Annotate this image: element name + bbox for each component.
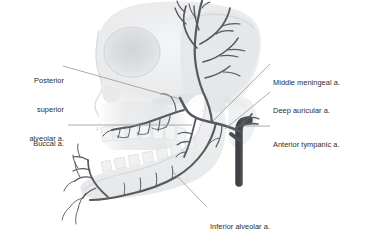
label-deep-auricular: Deep auricular a.	[273, 87, 373, 125]
temporal-fossa	[180, 11, 259, 106]
incisive-branch-3	[62, 207, 70, 220]
label-line: Anterior tympanic a.	[273, 140, 373, 150]
label-inferior-alveolar: Inferior alveolar a.	[210, 203, 320, 237]
mental-branch-3	[73, 157, 88, 160]
label-line: Inferior alveolar a.	[210, 222, 320, 232]
label-line: Posterior	[4, 76, 64, 86]
label-buccal: Buccal a.	[4, 120, 64, 158]
label-line: Buccal a.	[4, 139, 64, 149]
label-line: superior	[4, 105, 64, 115]
label-anterior-tympanic: Anterior tympanic a.	[273, 121, 373, 159]
label-line: Deep auricular a.	[273, 106, 373, 116]
incisive-branch-2	[76, 209, 78, 224]
mental-branch-3a	[78, 144, 80, 157]
mental-branch-2	[73, 169, 90, 171]
mental-branch-1b	[64, 181, 75, 191]
